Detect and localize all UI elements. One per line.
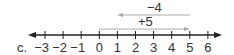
plus-five-arrow: +5	[99, 14, 190, 31]
tick-label: −2	[52, 40, 67, 55]
part-label: c.	[17, 40, 27, 55]
arrowhead-left-icon	[117, 13, 123, 17]
tick-label: −3	[34, 40, 49, 55]
tick-label: 1	[114, 40, 121, 55]
tick-label: 0	[96, 40, 103, 55]
right-arrowhead-icon	[214, 32, 222, 38]
minus-four-arrow: −4	[117, 0, 190, 17]
tick-label: 3	[150, 40, 157, 55]
tick-label: 2	[132, 40, 139, 55]
tick-label: 5	[186, 40, 193, 55]
left-arrowhead-icon	[28, 32, 36, 38]
arrowhead-right-icon	[184, 27, 190, 31]
tick-label: −1	[70, 40, 85, 55]
tick-label: 4	[168, 40, 175, 55]
number-line-axis	[28, 32, 222, 38]
plus-five-label: +5	[138, 14, 153, 29]
number-line-diagram: −3−2−10123456 c. +5 −4	[0, 0, 234, 55]
minus-four-label: −4	[147, 0, 162, 15]
tick-labels: −3−2−10123456	[34, 40, 211, 55]
tick-label: 6	[204, 40, 211, 55]
